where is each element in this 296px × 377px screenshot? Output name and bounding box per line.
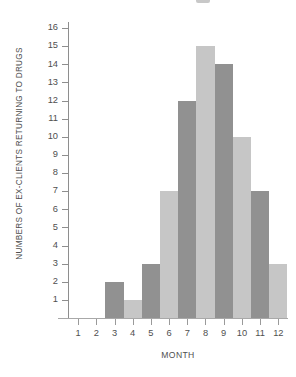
y-axis-tick (62, 227, 69, 228)
y-axis-tick (62, 28, 69, 29)
y-axis-tick-label: 15 (36, 41, 58, 50)
bar (215, 64, 233, 318)
bar (269, 264, 287, 318)
bar (142, 264, 160, 318)
bar (251, 191, 269, 318)
y-axis-tick-label: 1 (36, 295, 58, 304)
y-axis-tick-label: 2 (36, 277, 58, 286)
x-axis-tick (260, 319, 261, 325)
bar (178, 101, 196, 319)
y-axis-tick-label: 9 (36, 150, 58, 159)
x-axis-tick (278, 319, 279, 325)
y-axis-tick (62, 173, 69, 174)
x-axis-tick (205, 319, 206, 325)
bar (196, 46, 214, 318)
x-axis-line (58, 318, 288, 319)
y-axis-tick (62, 46, 69, 47)
y-axis-tick (62, 155, 69, 156)
x-axis-tick (133, 319, 134, 325)
y-axis-tick (62, 64, 69, 65)
x-axis-tick (115, 319, 116, 325)
y-axis-tick (62, 82, 69, 83)
y-axis-tick (62, 137, 69, 138)
bar (105, 282, 123, 318)
y-axis-tick (62, 209, 69, 210)
y-axis-tick (62, 282, 69, 283)
x-axis-tick (78, 319, 79, 325)
y-axis-tick (62, 101, 69, 102)
y-axis-tick (62, 191, 69, 192)
y-axis-title: NUMBERS OF EX-CLIENTS RETURNING TO DRUGS (15, 29, 24, 279)
x-axis-tick (96, 319, 97, 325)
x-axis-tick (151, 319, 152, 325)
y-axis-line (68, 22, 69, 318)
bar (124, 300, 142, 318)
y-axis-tick-label: 4 (36, 241, 58, 250)
y-axis-tick-label: 8 (36, 168, 58, 177)
y-axis-tick-label: 13 (36, 78, 58, 87)
y-axis-tick (62, 246, 69, 247)
y-axis-tick-label: 14 (36, 60, 58, 69)
y-axis-tick-label: 16 (36, 23, 58, 32)
y-axis-tick-label: 11 (36, 114, 58, 123)
y-axis-tick-label: 10 (36, 132, 58, 141)
y-axis-tick-label: 12 (36, 96, 58, 105)
x-axis-tick (187, 319, 188, 325)
y-axis-tick-label: 3 (36, 259, 58, 268)
bar (233, 137, 251, 318)
x-axis-tick (224, 319, 225, 325)
bar (160, 191, 178, 318)
x-axis-tick-label: 12 (266, 329, 290, 338)
y-axis-tick (62, 119, 69, 120)
y-axis-tick (62, 264, 69, 265)
y-axis-tick (62, 300, 69, 301)
x-axis-tick (169, 319, 170, 325)
y-axis-tick-label: 7 (36, 186, 58, 195)
x-axis-title: MONTH (68, 350, 288, 360)
bar-chart: NUMBERS OF EX-CLIENTS RETURNING TO DRUGS… (0, 0, 296, 377)
x-axis-tick (242, 319, 243, 325)
y-axis-tick-label: 6 (36, 205, 58, 214)
y-axis-tick-label: 5 (36, 223, 58, 232)
